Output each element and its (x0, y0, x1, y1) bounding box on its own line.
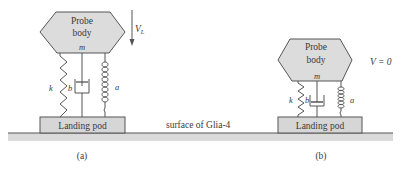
mass-label-a: m (79, 42, 85, 52)
probe-body-a-line1: Probe (71, 16, 93, 26)
ground-label: surface of Glia-4 (166, 120, 231, 130)
ground-surface (8, 133, 393, 141)
damper-b-label-a: b (68, 83, 72, 93)
landing-pod-a-label: Landing pod (58, 121, 107, 131)
spring-k-label-b: k (289, 95, 293, 105)
damper-b-label-b: b (305, 95, 309, 105)
velocity-label-b: V = 0 (370, 57, 392, 67)
figure: surface of Glia-4 Probe body m k b a Lan… (0, 0, 405, 175)
landing-pod-b-label: Landing pod (296, 121, 345, 131)
velocity-arrow-icon (130, 10, 135, 46)
coil-a-a (102, 53, 108, 117)
mass-label-b: m (314, 71, 320, 81)
caption-b: (b) (315, 151, 326, 162)
probe-body-b-line1: Probe (305, 42, 327, 52)
damper-b-a (75, 53, 89, 117)
coil-a-label-a: a (115, 82, 119, 92)
damper-b-b (310, 81, 324, 117)
spring-k-b (298, 81, 304, 117)
caption-a: (a) (77, 151, 88, 162)
coil-a-b (338, 81, 344, 117)
probe-body-b-line2: body (307, 55, 326, 65)
spring-k-a (60, 53, 67, 117)
spring-k-label-a: k (49, 83, 53, 93)
panel-b: Probe body m k b a Landing pod V = 0 (b) (278, 39, 392, 162)
probe-body-a-line2: body (73, 28, 92, 38)
coil-a-label-b: a (350, 95, 354, 105)
velocity-label-a: VL (135, 24, 145, 35)
